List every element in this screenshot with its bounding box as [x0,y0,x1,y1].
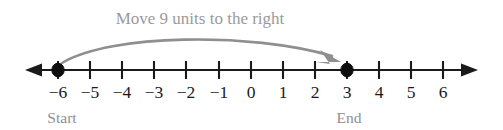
tick-label-neg4: −4 [113,84,132,102]
tick-label-2: 2 [311,84,320,102]
move-caption-label: Move 9 units to the right [116,10,285,27]
tick-label-neg1: −1 [210,84,229,102]
axis-right-arrowhead [461,64,478,77]
end-label: End [337,110,362,126]
start-point-dot [52,63,64,77]
tick-label-neg5: −5 [81,84,100,102]
tick-label-3: 3 [343,84,352,102]
tick-label-0: 0 [247,84,256,102]
end-point-dot [341,63,353,77]
tick-label-1: 1 [279,84,288,102]
tick-label-4: 4 [375,84,384,102]
number-line-figure: Move 9 units to the right −6 −5 −4 −3 −2… [0,0,503,130]
tick-label-neg6: −6 [49,84,68,102]
move-arrow-arc [62,39,332,63]
tick-label-neg3: −3 [145,84,164,102]
tick-label-neg2: −2 [177,84,196,102]
axis-left-arrowhead [25,64,42,77]
tick-label-5: 5 [407,84,416,102]
tick-label-6: 6 [439,84,448,102]
start-label: Start [47,110,76,126]
